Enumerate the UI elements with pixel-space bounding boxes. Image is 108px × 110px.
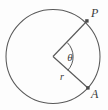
circle-sector-figure: P A θ r bbox=[0, 0, 108, 110]
point-p-label: P bbox=[90, 6, 99, 20]
point-a-label: A bbox=[90, 87, 99, 101]
radius-r-label: r bbox=[60, 71, 64, 82]
point-a-marker bbox=[86, 86, 89, 89]
angle-theta-label: θ bbox=[67, 51, 73, 63]
point-p-marker bbox=[85, 19, 88, 22]
geometry-canvas: P A θ r bbox=[0, 0, 108, 110]
